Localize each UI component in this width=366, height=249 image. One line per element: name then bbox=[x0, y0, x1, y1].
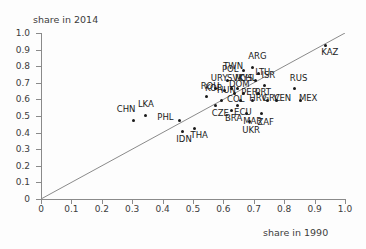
data-point-label: TWN bbox=[223, 62, 243, 71]
x-tick-label: 0.3 bbox=[117, 205, 147, 214]
y-tick-label: 0.7 bbox=[0, 79, 30, 88]
y-tick-label: 0.8 bbox=[0, 62, 30, 71]
x-tick-label: 1.0 bbox=[330, 205, 360, 214]
data-point-label: CHL bbox=[239, 74, 256, 83]
data-point-label: VEN bbox=[274, 94, 292, 103]
y-tick-label: 0.2 bbox=[0, 162, 30, 171]
data-point[interactable] bbox=[251, 66, 254, 69]
data-point-label: THA bbox=[191, 131, 208, 140]
x-axis-title: share in 1990 bbox=[263, 227, 328, 238]
plot-area: CHNLKAPHLIDNTHAROUURYCZEHUNKORPOLSVKBRAD… bbox=[41, 33, 345, 199]
data-point-label: RUS bbox=[290, 74, 308, 83]
identity-reference-line bbox=[41, 33, 345, 199]
data-point-label: ISR bbox=[261, 71, 275, 80]
data-point-label: CHN bbox=[117, 105, 136, 114]
y-tick-label: 0.1 bbox=[0, 178, 30, 187]
data-point[interactable] bbox=[263, 84, 266, 87]
data-point-label: ARG bbox=[248, 52, 266, 61]
data-point[interactable] bbox=[132, 119, 135, 122]
data-point-label: LKA bbox=[138, 100, 154, 109]
x-tick-label: 0.1 bbox=[56, 205, 86, 214]
x-tick-label: 0.7 bbox=[239, 205, 269, 214]
data-point-label: MEX bbox=[299, 94, 318, 103]
x-tick-label: 0.8 bbox=[269, 205, 299, 214]
scatter-chart: share in 2014 00.10.20.30.40.50.60.70.80… bbox=[0, 0, 366, 249]
y-tick-label: 1.0 bbox=[0, 29, 30, 38]
data-point-label: URY bbox=[211, 74, 228, 83]
y-tick-label: 0.6 bbox=[0, 95, 30, 104]
y-tick-label: 0.9 bbox=[0, 46, 30, 55]
data-point[interactable] bbox=[230, 109, 233, 112]
data-point[interactable] bbox=[178, 119, 181, 122]
data-point[interactable] bbox=[236, 87, 239, 90]
y-tick-label: 0.5 bbox=[0, 112, 30, 121]
data-point-label: KAZ bbox=[321, 48, 338, 57]
y-tick-label: 0.3 bbox=[0, 145, 30, 154]
data-point-label: IDN bbox=[176, 135, 191, 144]
y-axis-title: share in 2014 bbox=[33, 14, 98, 25]
y-tick-label: 0.4 bbox=[0, 129, 30, 138]
x-tick-label: 0.4 bbox=[148, 205, 178, 214]
y-tick-label: 0 bbox=[0, 195, 30, 204]
data-point-label: UKR bbox=[242, 126, 260, 135]
data-point-label: PHL bbox=[157, 113, 173, 122]
data-point[interactable] bbox=[260, 112, 263, 115]
data-point-label: ZAF bbox=[257, 118, 274, 127]
x-tick-label: 0.5 bbox=[178, 205, 208, 214]
data-point-label: KOR bbox=[205, 84, 223, 93]
data-point[interactable] bbox=[245, 112, 248, 115]
x-tick-label: 0.2 bbox=[87, 205, 117, 214]
x-tick-label: 0 bbox=[26, 205, 56, 214]
x-tick-label: 0.6 bbox=[208, 205, 238, 214]
x-tick-label: 0.9 bbox=[300, 205, 330, 214]
